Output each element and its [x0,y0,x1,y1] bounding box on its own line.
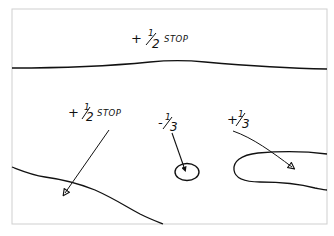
label-lower-left-denominator: 2 [86,110,94,124]
diagram-canvas: + 1 2 STOP + 1 2 STOP - 1 3 + 1 3 [0,0,334,236]
label-sky-sign: + [131,31,142,46]
label-right-denominator: 3 [242,117,250,131]
label-center-sign: - [158,115,163,130]
label-lower-left-sign: + [68,105,79,120]
exposure-sketch: + 1 2 STOP + 1 2 STOP - 1 3 + 1 3 [0,0,334,236]
label-sky-suffix: STOP [164,34,189,44]
label-sky-denominator: 2 [152,37,160,51]
label-lower-left-suffix: STOP [97,108,122,118]
label-center-denominator: 3 [170,120,178,134]
